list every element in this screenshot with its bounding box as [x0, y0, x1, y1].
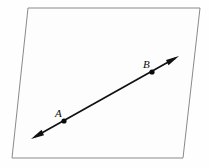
- geometry-figure-canvas: A B: [0, 0, 209, 168]
- geometry-figure-svg: A B: [0, 0, 209, 168]
- point-b-dot: [149, 69, 154, 74]
- point-b-label: B: [143, 58, 150, 70]
- point-a-dot: [61, 118, 66, 123]
- point-a-label: A: [54, 107, 62, 119]
